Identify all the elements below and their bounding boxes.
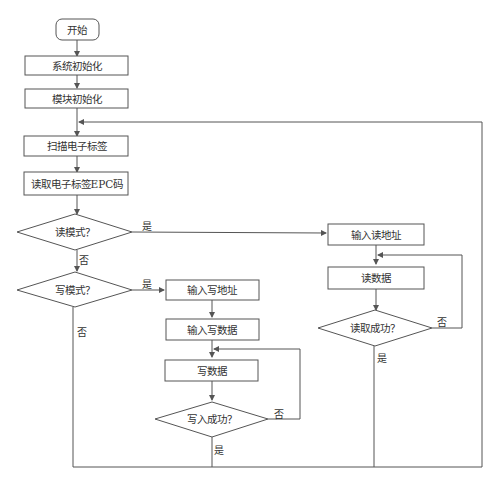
node-sys-init: 系统初始化: [25, 56, 128, 75]
flowchart: 开始 系统初始化 模块初始化 扫描电子标签 读取电子标签EPC码 读模式？ 写模…: [0, 0, 500, 484]
node-write-mode: 写模式？: [17, 272, 132, 307]
svg-text:输入写地址: 输入写地址: [187, 284, 238, 296]
node-write-data: 写数据: [165, 360, 258, 381]
node-input-write-addr: 输入写地址: [166, 280, 259, 300]
svg-text:读数据: 读数据: [361, 272, 392, 284]
svg-text:模块初始化: 模块初始化: [52, 93, 103, 105]
label-readsuccess-no: 否: [437, 317, 447, 328]
svg-text:扫描电子标签: 扫描电子标签: [47, 140, 108, 152]
label-writemode-no: 否: [77, 327, 87, 338]
edge-readmode-yes: [132, 232, 326, 233]
svg-text:读模式？: 读模式？: [55, 226, 95, 238]
label-writesuccess-no: 否: [274, 409, 284, 420]
node-scan-tag: 扫描电子标签: [24, 136, 128, 156]
label-writemode-yes: 是: [142, 279, 152, 290]
label-readmode-yes: 是: [142, 221, 152, 232]
label-writesuccess-yes: 是: [214, 445, 224, 456]
svg-text:输入写数据: 输入写数据: [187, 324, 238, 336]
svg-text:系统初始化: 系统初始化: [52, 60, 103, 72]
node-read-data: 读数据: [328, 267, 424, 289]
node-read-success: 读取成功？: [318, 310, 432, 346]
svg-text:输入读地址: 输入读地址: [351, 229, 402, 241]
svg-text:写入成功？: 写入成功？: [187, 413, 237, 425]
node-input-write-data: 输入写数据: [166, 319, 259, 340]
node-start: 开始: [56, 19, 99, 40]
svg-text:读取成功？: 读取成功？: [350, 322, 400, 334]
node-write-success: 写入成功？: [155, 402, 268, 437]
node-input-read-addr: 输入读地址: [328, 224, 424, 245]
node-mod-init: 模块初始化: [25, 89, 128, 108]
label-readmode-no: 否: [79, 255, 89, 266]
node-read-mode: 读模式？: [17, 214, 132, 250]
svg-text:写模式？: 写模式？: [55, 284, 95, 296]
svg-text:开始: 开始: [67, 24, 88, 36]
svg-text:读取电子标签EPC码: 读取电子标签EPC码: [31, 178, 124, 190]
label-readsuccess-yes: 是: [377, 353, 387, 364]
svg-text:写数据: 写数据: [197, 365, 228, 377]
node-read-epc: 读取电子标签EPC码: [24, 172, 128, 195]
